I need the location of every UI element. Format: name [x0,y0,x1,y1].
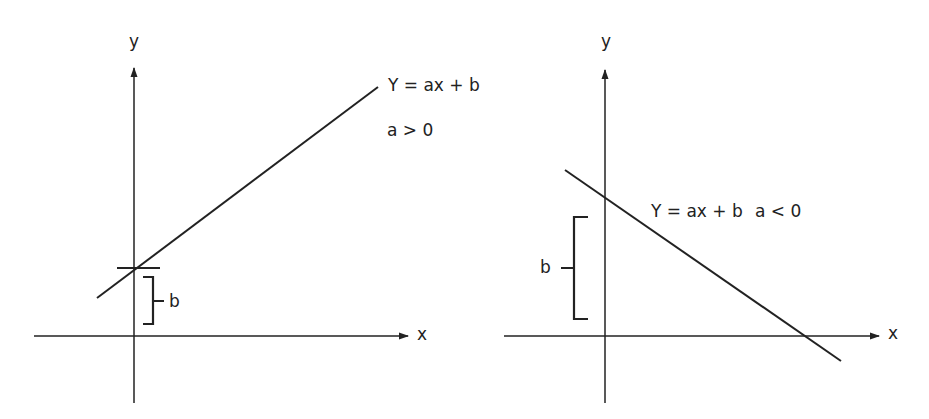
condition-label-right: a < 0 [755,203,801,220]
y-axis-label-right: y [601,33,611,50]
graph-negative-slope: y x Y = ax + b a < 0 b [0,0,929,419]
line-negative-slope [565,170,841,361]
x-axis-label-right: x [888,325,898,342]
equation-label-right: Y = ax + b [651,203,743,220]
intercept-bracket-right [561,217,588,319]
intercept-label-right: b [540,259,551,276]
